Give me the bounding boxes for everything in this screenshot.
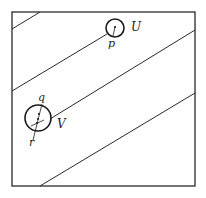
diagram-canvas: U p q V r [0,0,206,198]
diagonal-line-1 [12,12,40,29]
label-r: r [29,136,35,149]
label-V: V [57,117,67,131]
label-U: U [131,20,142,34]
label-p: p [108,37,115,50]
diagonal-line-4 [40,93,195,186]
q-r-connector [33,104,42,140]
point-mid-dot [37,118,39,120]
point-p-pointer [113,27,115,36]
diagonal-line-2 [12,34,107,91]
label-q: q [38,91,45,104]
point-q-dot [38,113,40,115]
